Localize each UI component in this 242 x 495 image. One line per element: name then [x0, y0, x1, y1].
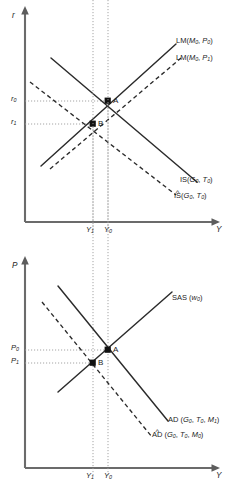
adas-ytick-P0-sub: 0	[16, 346, 19, 352]
islm-xtick-Y0: Y0	[104, 226, 112, 235]
islm-curve-is-hat	[30, 82, 176, 195]
close-paren: )	[217, 415, 220, 424]
islm-label-is-hat-prefix-wrap: ^IS	[174, 192, 181, 200]
adas-label-ad1-prefix: AD	[168, 415, 178, 424]
close-paren: )	[200, 293, 203, 302]
adas-label-ad-hat: ^AD (G0, T0, M0)	[152, 431, 203, 440]
close-paren: )	[210, 53, 213, 62]
adas-ytick-P1-sub: 1	[16, 359, 19, 365]
islm-ytick-r1: r1	[11, 118, 17, 127]
islm-label-lm0: LM(M0, P0)	[176, 37, 213, 46]
hat-accent-icon: ^	[155, 428, 159, 436]
islm-xtick-Y1: Y1	[86, 226, 94, 235]
adas-point-a-label: A	[113, 346, 118, 354]
islm-y-axis-arrowhead	[21, 6, 29, 15]
islm-ytick-r0: r0	[11, 95, 17, 104]
adas-xtick-Y0-sub: 0	[109, 474, 112, 480]
adas-label-ad1: AD (G0, T0, M1)	[168, 416, 219, 425]
islm-label-is-hat: ^IS(G0, T0)	[174, 192, 207, 201]
comma: ,	[192, 415, 194, 424]
adas-xtick-Y1: Y1	[86, 472, 94, 481]
adas-x-axis-label: Y	[216, 472, 221, 480]
close-paren: )	[204, 191, 207, 200]
adas-label-sas-prefix: SAS	[172, 293, 187, 302]
islm-x-axis-label: Y	[216, 226, 221, 234]
comma: ,	[187, 430, 189, 439]
adas-point-b-label: B	[98, 359, 103, 367]
comma: ,	[198, 175, 200, 184]
islm-ytick-r1-sub: 1	[14, 120, 17, 126]
comma: ,	[192, 191, 194, 200]
adas-xtick-Y0: Y0	[104, 472, 112, 481]
adas-plot-area	[0, 250, 242, 495]
adas-point-b-marker	[90, 360, 96, 366]
close-paren: )	[210, 175, 213, 184]
adas-y-axis-arrowhead	[21, 256, 29, 265]
close-paren: )	[210, 36, 213, 45]
adas-panel: P Y P0 P1 Y1 Y0 A B SAS (w0) AD (G0, T0,…	[0, 250, 242, 495]
adas-label-ad-hat-prefix-wrap: ^AD	[152, 431, 162, 439]
islm-label-lm1-prefix: LM	[176, 53, 186, 62]
islm-label-lm0-prefix: LM	[176, 36, 186, 45]
hat-accent-icon: ^	[176, 189, 180, 197]
adas-xtick-Y1-sub: 1	[91, 474, 94, 480]
islm-label-lm1: LM(M0, P1)	[176, 54, 213, 63]
comma: ,	[203, 415, 205, 424]
islm-point-b-label: B	[98, 120, 103, 128]
comma: ,	[176, 430, 178, 439]
adas-curve-ad-hat	[42, 302, 152, 437]
adas-ytick-P0: P0	[11, 344, 19, 353]
islm-y-axis-label: r	[12, 12, 15, 20]
close-paren: )	[201, 430, 204, 439]
islm-ytick-r0-sub: 0	[14, 97, 17, 103]
adas-y-axis-label: P	[12, 262, 17, 270]
adas-label-sas: SAS (w0)	[172, 294, 202, 303]
comma: ,	[198, 36, 200, 45]
islm-curve-is0	[51, 58, 197, 182]
adas-ytick-P1: P1	[11, 357, 19, 366]
islm-point-a-label: A	[113, 97, 118, 105]
islm-panel: r Y r0 r1 Y1 Y0 A B LM(M0, P0) LM(M0, P1…	[0, 0, 242, 250]
islm-xtick-Y0-sub: 0	[109, 228, 112, 234]
islm-label-is0: IS(G0, T0)	[180, 176, 213, 185]
adas-point-a-marker	[105, 347, 111, 353]
comma: ,	[198, 53, 200, 62]
